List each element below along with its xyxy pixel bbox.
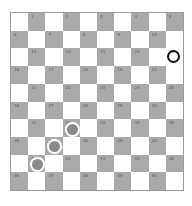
square-33[interactable]: 33 (97, 119, 114, 137)
square-16[interactable]: 16 (11, 66, 28, 84)
square-number: 46 (14, 174, 19, 178)
square-10[interactable]: 10 (149, 31, 166, 49)
white-piece[interactable] (47, 139, 62, 154)
square-21[interactable]: 21 (28, 84, 45, 102)
square-2[interactable]: 2 (63, 13, 80, 31)
black-piece[interactable] (167, 50, 180, 63)
square-13[interactable]: 13 (97, 48, 114, 66)
square-44[interactable]: 44 (131, 155, 148, 173)
light-square (11, 155, 28, 173)
square-19[interactable]: 19 (114, 66, 131, 84)
light-square (28, 137, 45, 155)
square-49[interactable]: 49 (114, 172, 131, 190)
light-square (63, 31, 80, 49)
square-39[interactable]: 39 (114, 137, 131, 155)
white-piece[interactable] (65, 122, 80, 137)
square-41[interactable]: 41 (28, 155, 45, 173)
square-number: 50 (152, 174, 157, 178)
square-number: 11 (31, 50, 36, 54)
light-square (11, 119, 28, 137)
square-number: 12 (66, 50, 71, 54)
square-27[interactable]: 27 (45, 102, 62, 120)
square-24[interactable]: 24 (131, 84, 148, 102)
square-number: 23 (100, 86, 105, 90)
square-number: 17 (48, 68, 53, 72)
light-square (131, 137, 148, 155)
square-40[interactable]: 40 (149, 137, 166, 155)
square-number: 30 (152, 104, 157, 108)
square-42[interactable]: 42 (63, 155, 80, 173)
light-square (149, 84, 166, 102)
square-6[interactable]: 6 (11, 31, 28, 49)
square-number: 21 (31, 86, 36, 90)
square-18[interactable]: 18 (80, 66, 97, 84)
light-square (131, 102, 148, 120)
square-29[interactable]: 29 (114, 102, 131, 120)
square-38[interactable]: 38 (80, 137, 97, 155)
square-7[interactable]: 7 (45, 31, 62, 49)
square-number: 43 (100, 157, 105, 161)
square-1[interactable]: 1 (28, 13, 45, 31)
square-45[interactable]: 45 (166, 155, 183, 173)
square-26[interactable]: 26 (11, 102, 28, 120)
square-32[interactable]: 32 (63, 119, 80, 137)
light-square (114, 13, 131, 31)
white-piece[interactable] (30, 157, 45, 172)
square-3[interactable]: 3 (97, 13, 114, 31)
light-square (131, 66, 148, 84)
square-22[interactable]: 22 (63, 84, 80, 102)
square-25[interactable]: 25 (166, 84, 183, 102)
square-47[interactable]: 47 (45, 172, 62, 190)
light-square (45, 155, 62, 173)
square-30[interactable]: 30 (149, 102, 166, 120)
square-number: 8 (83, 33, 86, 37)
light-square (149, 13, 166, 31)
square-number: 28 (83, 104, 88, 108)
square-number: 29 (117, 104, 122, 108)
square-number: 19 (117, 68, 122, 72)
square-number: 3 (100, 15, 103, 19)
square-number: 36 (14, 139, 19, 143)
square-number: 4 (134, 15, 137, 19)
square-number: 10 (152, 33, 157, 37)
square-4[interactable]: 4 (131, 13, 148, 31)
light-square (28, 66, 45, 84)
square-14[interactable]: 14 (131, 48, 148, 66)
checkers-board: 1234567891011121314151617181920212223242… (10, 12, 184, 191)
square-20[interactable]: 20 (149, 66, 166, 84)
square-50[interactable]: 50 (149, 172, 166, 190)
light-square (63, 66, 80, 84)
square-number: 24 (134, 86, 139, 90)
light-square (28, 172, 45, 190)
square-number: 20 (152, 68, 157, 72)
light-square (149, 48, 166, 66)
light-square (63, 172, 80, 190)
square-8[interactable]: 8 (80, 31, 97, 49)
square-46[interactable]: 46 (11, 172, 28, 190)
square-15[interactable]: 15 (166, 48, 183, 66)
light-square (114, 119, 131, 137)
square-11[interactable]: 11 (28, 48, 45, 66)
square-34[interactable]: 34 (131, 119, 148, 137)
square-48[interactable]: 48 (80, 172, 97, 190)
square-number: 6 (14, 33, 17, 37)
square-9[interactable]: 9 (114, 31, 131, 49)
square-23[interactable]: 23 (97, 84, 114, 102)
square-43[interactable]: 43 (97, 155, 114, 173)
light-square (45, 48, 62, 66)
light-square (149, 119, 166, 137)
square-17[interactable]: 17 (45, 66, 62, 84)
square-37[interactable]: 37 (45, 137, 62, 155)
square-28[interactable]: 28 (80, 102, 97, 120)
square-36[interactable]: 36 (11, 137, 28, 155)
light-square (80, 119, 97, 137)
square-12[interactable]: 12 (63, 48, 80, 66)
square-number: 18 (83, 68, 88, 72)
square-31[interactable]: 31 (28, 119, 45, 137)
light-square (11, 84, 28, 102)
light-square (80, 48, 97, 66)
square-number: 38 (83, 139, 88, 143)
square-35[interactable]: 35 (166, 119, 183, 137)
square-5[interactable]: 5 (166, 13, 183, 31)
light-square (45, 119, 62, 137)
